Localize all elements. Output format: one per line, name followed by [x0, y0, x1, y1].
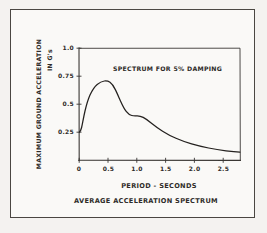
y-tick-label-0-25: 0.25 [58, 128, 74, 135]
y-tick-label-1-0: 1.0 [62, 44, 74, 51]
chart-canvas: 1.0 0.75 0.5 0.25 0 0.5 1.0 1.5 2.0 2.5 … [0, 0, 267, 233]
figure-caption: AVERAGE ACCELERATION SPECTRUM [74, 197, 218, 205]
x-tick-label-1-5: 1.5 [160, 165, 172, 172]
figure-sheet: 1.0 0.75 0.5 0.25 0 0.5 1.0 1.5 2.0 2.5 … [0, 0, 267, 233]
x-axis-title: PERIOD - SECONDS [121, 182, 197, 190]
spectrum-curve [79, 81, 239, 152]
x-tick-label-1-0: 1.0 [131, 165, 143, 172]
y-tick-label-0-75: 0.75 [58, 72, 74, 79]
x-tick-label-0: 0 [77, 165, 81, 172]
x-tick-label-2-5: 2.5 [218, 165, 230, 172]
y-tick-label-0-5: 0.5 [62, 100, 74, 107]
damping-annotation: SPECTRUM FOR 5% DAMPING [113, 65, 222, 72]
y-axis-title-group: MAXIMUM GROUND ACCELERATION IN G's [35, 39, 53, 170]
y-axis-title-line2: IN G's [46, 49, 53, 71]
x-tick-label-0-5: 0.5 [103, 165, 115, 172]
y-axis-title-line1: MAXIMUM GROUND ACCELERATION [35, 39, 42, 170]
x-tick-label-2-0: 2.0 [189, 165, 201, 172]
